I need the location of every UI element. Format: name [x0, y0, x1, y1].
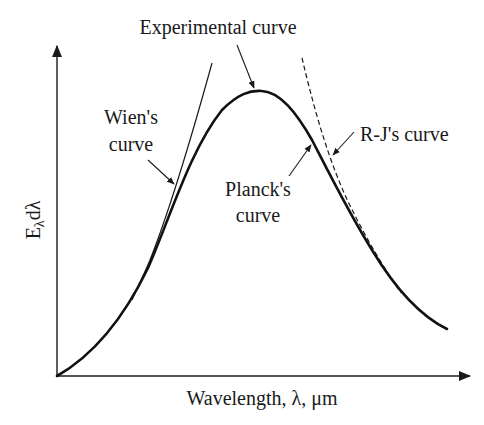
planck-curve-label-line1: Planck's: [225, 178, 291, 200]
wien-curve-label-line1: Wien's: [104, 106, 158, 128]
wien-curve-label-line2: curve: [109, 133, 154, 155]
rj-curve-label: R-J's curve: [360, 123, 449, 145]
blackbody-radiation-diagram: Experimental curve Wien's curve Planck's…: [0, 0, 484, 425]
experimental-curve-label: Experimental curve: [139, 16, 296, 39]
y-axis-label-main: E: [22, 227, 44, 239]
svg-text:Eλdλ: Eλdλ: [22, 200, 47, 239]
rayleigh-jeans-curve: [302, 58, 401, 293]
experimental-pointer-arrow: [237, 45, 254, 88]
y-axis-label-tail: dλ: [22, 200, 44, 220]
y-axis-label: Eλdλ: [22, 200, 47, 239]
rj-pointer-arrow: [333, 132, 354, 155]
planck-pointer-arrow: [289, 145, 311, 176]
x-axis-label: Wavelength, λ, μm: [187, 387, 338, 410]
planck-curve-label-line2: curve: [236, 204, 281, 226]
wien-pointer-arrow: [148, 160, 174, 184]
